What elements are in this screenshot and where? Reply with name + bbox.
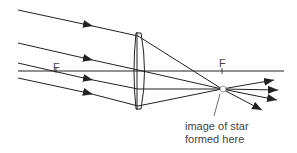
incoming-ray-4 — [18, 78, 138, 106]
incoming-ray-1 — [18, 10, 138, 36]
star-image-icon — [220, 86, 226, 92]
ray-diagram: F F image of star formed here — [0, 0, 297, 153]
incoming-ray-2 — [18, 43, 138, 70]
image-caption-line-1: image of star — [185, 120, 249, 132]
image-caption-line-2: formed here — [185, 133, 244, 145]
focal-point-right-label: F — [219, 57, 226, 69]
focal-point-left-label: F — [53, 61, 60, 73]
diverging-rays — [222, 80, 278, 110]
incoming-rays — [18, 10, 138, 106]
caption-pointer — [214, 94, 220, 116]
incoming-ray-3 — [18, 63, 138, 89]
